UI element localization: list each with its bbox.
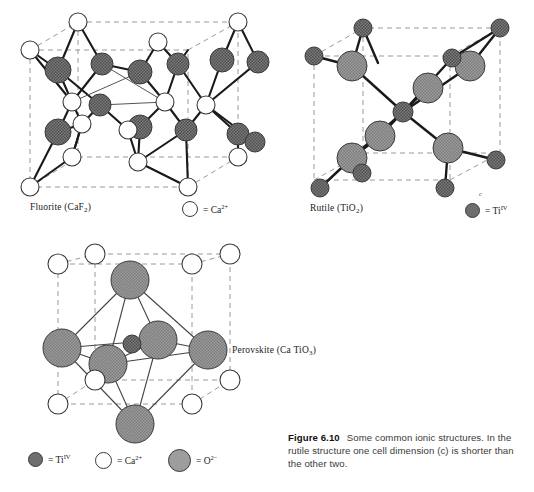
- legend-perovskite-ca-text: = Ca2+: [117, 454, 142, 466]
- cation-center-sphere: [123, 335, 141, 353]
- fluorite-svg: [10, 2, 280, 202]
- figure-number: Figure 6.10: [288, 432, 340, 443]
- rutile-svg: [300, 8, 530, 208]
- legend-rutile-ti-text: = TiIV: [485, 204, 508, 216]
- legend-perovskite-o-sup: 2−: [211, 454, 218, 461]
- label-perovskite-tail: ): [313, 345, 316, 355]
- legend-fluorite-ca-text: = Ca2+: [203, 203, 228, 215]
- legend-perovskite-ca-sup: 2+: [135, 454, 142, 461]
- label-rutile-tail: ): [360, 203, 363, 213]
- legend-fluorite-ca-sup: 2+: [221, 203, 228, 210]
- cation-spheres: [305, 19, 509, 197]
- dark-circle-swatch-icon: [28, 452, 43, 467]
- label-perovskite-sub: 3: [309, 349, 313, 357]
- figure-page: Fluorite (CaF2) = Ca2+: [0, 0, 534, 492]
- legend-perovskite-ti-text: = TiIV: [48, 453, 71, 465]
- label-rutile-sub: 2: [356, 207, 360, 215]
- legend-perovskite-ti: = TiIV: [28, 452, 71, 467]
- perovskite-svg: [50, 252, 240, 442]
- dark-circle-swatch-icon: [465, 203, 480, 218]
- structure-diagram-perovskite: [50, 252, 240, 442]
- figure-caption: Figure 6.10Some common ionic structures.…: [288, 431, 526, 471]
- structure-diagram-rutile: [300, 8, 530, 208]
- mid-circle-swatch-icon: [168, 449, 191, 472]
- structure-diagram-fluorite: [10, 2, 280, 202]
- open-circle-swatch-icon: [95, 452, 112, 469]
- legend-rutile-ti: = TiIV: [465, 203, 508, 218]
- axis-label-c: c: [479, 190, 482, 198]
- label-rutile-main: Rutile (TiO: [310, 203, 356, 213]
- legend-fluorite-ca-prefix: = Ca: [203, 205, 221, 215]
- legend-perovskite-ti-prefix: = Ti: [48, 456, 64, 466]
- legend-rutile-ti-prefix: = Ti: [485, 207, 501, 217]
- label-fluorite-sub: 2: [84, 206, 88, 214]
- legend-perovskite-o-text: = O2−: [196, 454, 218, 466]
- label-perovskite-main: Perovskite (Ca TiO: [232, 345, 309, 355]
- legend-fluorite-ca: = Ca2+: [182, 201, 228, 217]
- legend-perovskite-ca: = Ca2+: [95, 452, 142, 469]
- label-rutile: Rutile (TiO2): [310, 203, 363, 213]
- legend-perovskite-ca-prefix: = Ca: [117, 457, 135, 467]
- label-fluorite-main: Fluorite (CaF: [30, 202, 84, 212]
- legend-perovskite-ti-sup: IV: [64, 453, 71, 460]
- label-fluorite: Fluorite (CaF2): [30, 202, 91, 212]
- label-fluorite-tail: ): [88, 202, 91, 212]
- label-perovskite: Perovskite (Ca TiO3): [232, 345, 316, 355]
- legend-perovskite-o-prefix: = O: [196, 457, 211, 467]
- legend-perovskite-o: = O2−: [168, 449, 218, 472]
- legend-rutile-ti-sup: IV: [501, 204, 508, 211]
- open-circle-swatch-icon: [182, 201, 198, 217]
